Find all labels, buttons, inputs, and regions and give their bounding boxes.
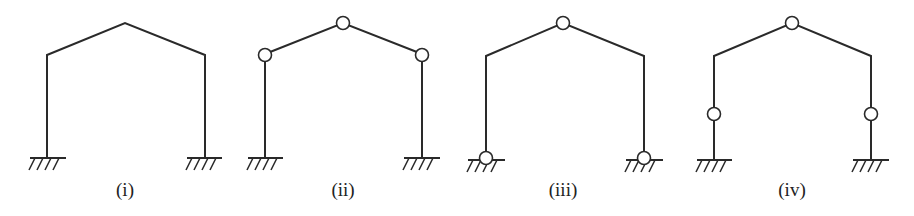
- frame-i-members: [47, 23, 205, 158]
- fixed-support-icon: [696, 160, 732, 172]
- hinge-icon: [337, 17, 350, 30]
- hinge-icon: [865, 108, 878, 121]
- frame-ii: (ii): [247, 17, 440, 202]
- frame-iii-members: [486, 23, 644, 158]
- frame-label: (i): [116, 179, 134, 201]
- fixed-support-icon: [403, 158, 440, 170]
- frame-label: (iv): [778, 179, 805, 201]
- fixed-support-icon: [852, 160, 889, 172]
- frame-label: (ii): [331, 179, 354, 201]
- fixed-support-icon: [247, 158, 283, 170]
- pinned-support-icon: [467, 152, 505, 173]
- frame-iii: (iii): [467, 17, 663, 202]
- frame-ii-members: [265, 23, 422, 158]
- hinge-icon: [557, 17, 570, 30]
- fixed-support-icon: [186, 158, 222, 170]
- fixed-support-icon: [29, 158, 66, 170]
- frame-iv: (iv): [696, 17, 889, 202]
- pinned-support-icon: [625, 152, 663, 173]
- hinge-icon: [259, 49, 272, 62]
- hinge-icon: [708, 108, 721, 121]
- frame-iv-members: [714, 23, 871, 160]
- hinge-icon: [786, 17, 799, 30]
- frame-i: (i): [29, 23, 222, 201]
- hinge-icon: [416, 49, 429, 62]
- frame-label: (iii): [549, 179, 578, 201]
- portal-frames-diagram: (i) (ii): [0, 0, 914, 216]
